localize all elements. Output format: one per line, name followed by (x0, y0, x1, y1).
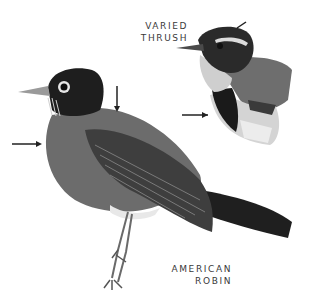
label-line: VARIED (128, 20, 188, 32)
varied-thrush-label: VARIED THRUSH (128, 20, 188, 44)
arrow-icon (202, 112, 208, 118)
bird-illustration: VARIED THRUSH AMERICAN ROBIN (0, 0, 310, 303)
american-robin-label: AMERICAN ROBIN (160, 263, 232, 287)
label-line: AMERICAN (160, 263, 232, 275)
crown-pointer (237, 22, 246, 28)
varied-thrush-figure (176, 27, 292, 145)
arrow-icon (36, 141, 42, 147)
birds-drawing (0, 0, 310, 303)
label-line: ROBIN (160, 275, 232, 287)
label-line: THRUSH (128, 32, 188, 44)
